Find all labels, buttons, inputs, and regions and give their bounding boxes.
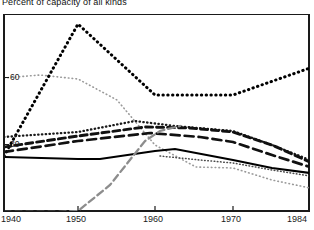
x-tick-label-1940: 1940 bbox=[1, 214, 21, 224]
chart-lines bbox=[0, 0, 314, 230]
x-tick-label-1960: 1960 bbox=[143, 214, 163, 224]
y-tick-30: 30 bbox=[4, 139, 19, 149]
x-tick-label-1950: 1950 bbox=[66, 214, 86, 224]
x-tick-label-1984: 1984 bbox=[287, 214, 307, 224]
y-tick-60: 60 bbox=[4, 72, 19, 82]
y-tick-mark-30 bbox=[4, 144, 9, 145]
y-tick-label-60: 60 bbox=[10, 72, 19, 82]
axis-ticks bbox=[78, 206, 233, 212]
y-tick-mark-60 bbox=[4, 77, 9, 78]
series-heavy-dotted-peak bbox=[4, 24, 310, 156]
x-tick-label-1970: 1970 bbox=[221, 214, 241, 224]
series-light-dotted-declining bbox=[4, 75, 310, 188]
series-solid-black bbox=[4, 149, 310, 173]
y-tick-label-30: 30 bbox=[10, 139, 19, 149]
chart-figure: Percent of capacity of all kinds bbox=[0, 0, 314, 230]
